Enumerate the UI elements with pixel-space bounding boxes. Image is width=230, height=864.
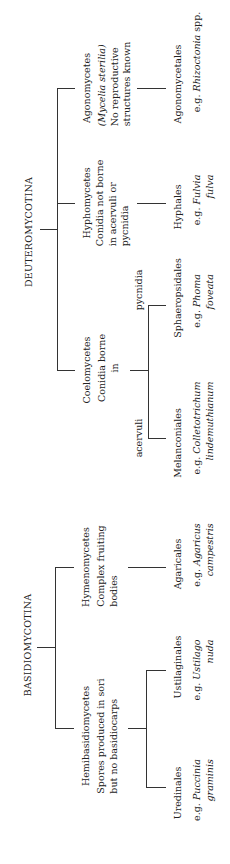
description-line: bodies (107, 525, 120, 606)
example-line: e.g. Colletotrichum (191, 382, 204, 475)
example-prefix: e.g. (191, 208, 202, 226)
example-genus: Colletotrichum (191, 382, 202, 454)
description-line: No reproductive (109, 42, 122, 127)
example-species: nuda (203, 639, 216, 700)
class-description-hemibasidiomycetes: Spores produced in sori but no basidioca… (95, 678, 120, 793)
example-species: spp. (191, 12, 202, 32)
example-species: campestris (203, 523, 216, 586)
connector-line (146, 670, 166, 671)
example-species: fulva (203, 175, 216, 226)
class-name-hymenomycetes: Hymenomycetes (80, 527, 93, 607)
example-prefix: e.g. (191, 569, 202, 587)
connector-line (130, 370, 149, 371)
order-example-uredinales: e.g. Puccinia graminis (191, 759, 216, 821)
class-description-agonomycetes: (Mycelia sterilia) No reproductive struc… (96, 42, 134, 127)
connector-line (137, 203, 166, 204)
example-prefix: e.g. (191, 683, 202, 701)
description-line: but no basidiocarps (107, 678, 120, 793)
description-line: in (108, 334, 121, 402)
connector-line (37, 647, 56, 648)
order-example-ustilaginales: e.g. Ustilago nuda (191, 639, 216, 700)
connector-line (57, 88, 75, 89)
example-species: graminis (203, 759, 216, 821)
order-example-agaricales: e.g. Agaricus campestris (191, 523, 216, 586)
subdivision-label-basidiomycotina: BASIDIOMYCOTINA (22, 594, 35, 696)
bracket-line (146, 670, 147, 788)
order-name-agonomycetales: Agonomycetales (172, 45, 185, 124)
taxonomy-diagram: DEUTEROMYCOTINA Agonomycetes (Mycelia st… (0, 0, 230, 864)
class-name-hyphomycetes: Hyphomycetes (81, 167, 94, 238)
example-genus: Agaricus (191, 523, 202, 566)
connector-line (57, 370, 75, 371)
example-species: foveata (203, 274, 216, 328)
example-genus: Rhizoctonia (191, 35, 202, 92)
class-description-coelomycetes: Conidia borne in (96, 334, 121, 402)
order-example-sphaeropsidales: e.g. Phoma foveata (191, 274, 216, 328)
description-line: Spores produced in sori (95, 678, 108, 793)
branch-label-acervuli: acervuli (133, 419, 146, 458)
example-line: e.g. Fulvia (191, 175, 204, 226)
branch-label-pycnidia: pycnidia (133, 270, 146, 311)
connector-line (55, 567, 74, 568)
example-prefix: e.g. (191, 457, 202, 475)
connector-line (40, 229, 58, 230)
example-genus: Fulvia (191, 175, 202, 205)
class-description-hyphomycetes: Conidia not borne in acervuli or pycnidi… (94, 160, 132, 247)
order-name-sphaeropsidales: Sphaeropsidales (172, 258, 185, 338)
connector-line (148, 438, 166, 439)
class-description-hymenomycetes: Complex fruiting bodies (95, 525, 120, 606)
description-line: pycnidia (119, 160, 132, 247)
connector-line (146, 787, 166, 788)
order-example-melanconiales: e.g. Colletotrichum lindemuthianum (191, 382, 216, 475)
description-line: Conidia borne (96, 334, 109, 402)
class-name-coelomycetes: Coelomycetes (81, 336, 94, 403)
example-genus: Puccinia (191, 759, 202, 800)
example-species: lindemuthianum (203, 382, 216, 475)
bracket-line (148, 305, 149, 439)
order-name-melanconiales: Melanconiales (172, 408, 185, 478)
connector-line (148, 305, 166, 306)
connector-line (128, 567, 166, 568)
connector-line (55, 728, 74, 729)
example-genus: Phoma (191, 274, 202, 307)
order-name-agaricales: Agaricales (172, 539, 185, 590)
connector-line (57, 203, 75, 204)
example-genus: Ustilago (191, 639, 202, 679)
bracket-line (55, 567, 56, 729)
order-name-hyphales: Hyphales (172, 184, 185, 229)
class-name-agonomycetes: Agonomycetes (81, 53, 94, 123)
order-example-hyphales: e.g. Fulvia fulva (191, 175, 216, 226)
connector-line (137, 88, 166, 89)
example-line: e.g. Ustilago (191, 639, 204, 700)
example-line: e.g. Agaricus (191, 523, 204, 586)
bracket-line (57, 88, 58, 371)
example-prefix: e.g. (191, 803, 202, 821)
description-line: (Mycelia sterilia) (96, 42, 109, 127)
description-line: structures known (121, 42, 134, 127)
example-prefix: e.g. (191, 95, 202, 113)
example-line: e.g. Puccinia (191, 759, 204, 821)
order-name-ustilaginales: Ustilaginales (172, 636, 185, 699)
order-name-uredinales: Uredinales (172, 767, 185, 820)
description-line: Conidia not borne (94, 160, 107, 247)
class-name-hemibasidiomycetes: Hemibasidiomycetes (80, 686, 93, 786)
subdivision-label-deuteromycotina: DEUTEROMYCOTINA (23, 177, 36, 287)
description-line: Complex fruiting (95, 525, 108, 606)
connector-line (128, 728, 147, 729)
order-example-agonomycetales: e.g. Rhizoctonia spp. (191, 12, 204, 113)
description-line: in acervuli or (107, 160, 120, 247)
example-line: e.g. Phoma (191, 274, 204, 328)
example-prefix: e.g. (191, 310, 202, 328)
